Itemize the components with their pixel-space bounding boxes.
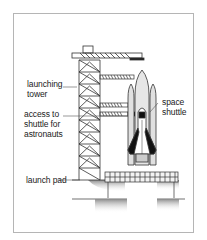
launching-tower bbox=[72, 60, 107, 180]
pad-shadow bbox=[95, 199, 179, 213]
label-launching-tower: launching tower bbox=[27, 79, 63, 99]
label-launch-pad: launch pad bbox=[26, 175, 67, 185]
label-space-shuttle: space shuttle bbox=[162, 97, 186, 117]
space-shuttle bbox=[128, 70, 156, 165]
crane-arm bbox=[72, 46, 144, 60]
label-access-to-shuttle: access to shuttle for astronauts bbox=[24, 109, 63, 139]
